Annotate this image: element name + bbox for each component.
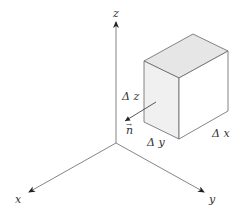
- y-axis-label: y: [208, 193, 216, 206]
- x-axis: [29, 143, 116, 192]
- z-axis-label: z: [112, 7, 119, 20]
- normal-vector-label: n: [126, 124, 133, 137]
- y-axis: [116, 143, 204, 192]
- cube: [144, 34, 228, 139]
- volume-element-diagram: z x y → n Δ z Δ y Δ x: [0, 0, 240, 216]
- delta-z-label: Δ z: [121, 90, 139, 103]
- delta-x-label: Δ x: [211, 127, 230, 140]
- x-axis-label: x: [15, 193, 22, 206]
- delta-y-label: Δ y: [146, 136, 165, 149]
